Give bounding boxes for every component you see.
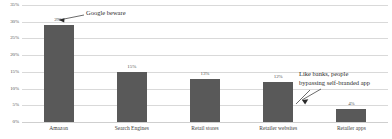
y-axis-tick-label: 30% [10,19,19,25]
bar-chart: 0%5%10%15%20%25%30%35% 29%15%13%12%4% Am… [0,0,392,139]
bar-group: 15% [95,5,168,122]
bar-value-label: 15% [127,64,136,70]
y-axis-tick-label: 10% [10,86,19,92]
x-axis: AmazonSearch EnginesRetail storesRetaile… [22,124,388,139]
annotation-retailer-apps: Like banks, people bypassing self-brande… [299,70,370,87]
x-axis-tick-label: Amazon [49,124,68,132]
bar-group: 4% [315,5,388,122]
y-axis: 0%5%10%15%20%25%30%35% [0,0,22,139]
bar [117,72,147,122]
x-axis-tick-label: Search Engines [115,124,149,132]
bar-value-label: 13% [201,71,210,77]
bar-group: 29% [22,5,95,122]
bar-group: 12% [242,5,315,122]
y-axis-tick-label: 35% [10,2,19,8]
y-axis-tick-label: 20% [10,52,19,58]
y-axis-tick-label: 15% [10,69,19,75]
x-axis-tick-label: Retail stores [191,124,218,132]
bar-value-label: 4% [348,101,354,107]
bar [190,79,220,122]
bar [336,109,366,122]
plot-area: 29%15%13%12%4% [22,5,388,122]
bar-series: 29%15%13%12%4% [22,5,388,122]
bar [263,82,293,122]
bar-value-label: 12% [274,74,283,80]
bar [44,25,74,122]
gridline [22,122,388,123]
y-axis-tick-label: 25% [10,35,19,41]
bar-value-label: 29% [54,17,63,23]
bar-group: 13% [168,5,241,122]
annotation-google-beware: Google beware [86,9,126,18]
x-axis-tick-label: Retailer apps [337,124,366,132]
y-axis-tick-label: 5% [13,102,19,108]
y-axis-tick-label: 0% [13,119,19,125]
x-axis-tick-label: Retailer websites [259,124,297,132]
